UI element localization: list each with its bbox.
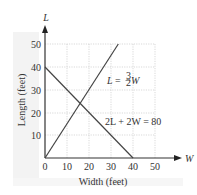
svg-text:40: 40 [128,161,138,172]
x-axis-symbol: W [185,153,195,164]
svg-text:L =: L = [106,75,121,86]
x-axis-arrow-icon [174,155,182,161]
svg-text:40: 40 [31,62,41,73]
x-axis-title: Width (feet) [79,176,128,188]
svg-text:20: 20 [84,161,94,172]
y-axis-arrow-icon [42,25,48,33]
y-axis-symbol: L [42,12,49,23]
x-tick-labels: 0 10 20 30 40 50 [43,161,161,172]
axes [45,30,176,158]
equation-label-1: L = 3 2 W [106,70,141,88]
grid [45,44,155,158]
svg-text:20: 20 [31,108,41,119]
line-L-equals-three-halves-W [45,44,118,158]
svg-text:50: 50 [150,161,160,172]
y-tick-labels: 50 40 30 20 10 [31,39,41,141]
svg-text:0: 0 [43,161,48,172]
svg-text:30: 30 [31,85,41,96]
svg-text:30: 30 [106,161,116,172]
svg-text:50: 50 [31,39,41,50]
svg-text:10: 10 [62,161,72,172]
y-axis-title: Length (feet) [16,74,28,126]
equation-label-2: 2L + 2W = 80 [105,116,161,127]
svg-text:10: 10 [31,130,41,141]
svg-text:W: W [131,75,141,86]
chart: 50 40 30 20 10 0 10 20 30 40 50 L W Widt… [0,0,197,195]
